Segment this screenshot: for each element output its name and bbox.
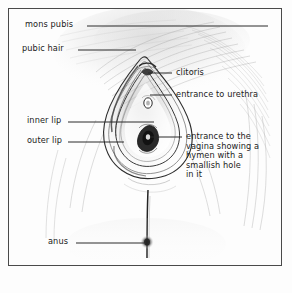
label-entrance-to-urethra: entrance to urethra xyxy=(176,90,258,100)
label-clitoris: clitoris xyxy=(176,68,204,78)
label-inner-lip: inner lip xyxy=(27,116,61,126)
label-anus: anus xyxy=(48,237,68,247)
label-mons-pubis: mons pubis xyxy=(25,20,73,30)
illustration-figure: mons pubis pubic hair inner lip outer li… xyxy=(0,0,292,293)
label-entrance-to-vagina: entrance to the vagina showing a hymen w… xyxy=(186,132,259,180)
label-outer-lip: outer lip xyxy=(27,136,62,146)
label-pubic-hair: pubic hair xyxy=(22,44,64,54)
